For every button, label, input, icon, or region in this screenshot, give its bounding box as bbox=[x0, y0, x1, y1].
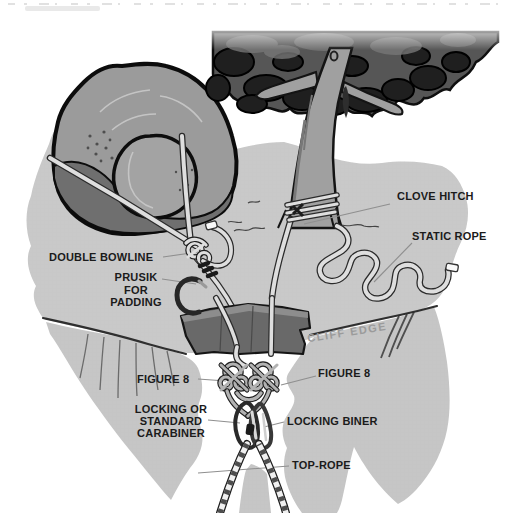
label-static-rope: STATIC ROPE bbox=[412, 230, 487, 242]
page-edge-text-artifact bbox=[8, 4, 505, 11]
locking-carabiners bbox=[235, 403, 271, 448]
rope-over-pad-right bbox=[271, 298, 272, 354]
rope-end-tip-2 bbox=[446, 263, 459, 272]
label-carabiner-line3: CARABINER bbox=[137, 427, 205, 439]
label-prusik-line1: PRUSIK bbox=[115, 271, 158, 283]
cliff-wedge-center bbox=[239, 464, 271, 513]
label-figure8-right: FIGURE 8 bbox=[318, 367, 370, 379]
label-prusik-line3: PADDING bbox=[110, 296, 161, 308]
label-locking-biner: LOCKING BINER bbox=[287, 415, 378, 427]
leader-locking-biner bbox=[264, 422, 284, 427]
label-carabiner-line2: STANDARD bbox=[140, 415, 203, 427]
carabiner-gate-right bbox=[263, 414, 266, 440]
anchor-diagram-page: CLOVE HITCH STATIC ROPE DOUBLE BOWLINE P… bbox=[0, 0, 513, 513]
locking-sleeve bbox=[245, 424, 254, 436]
canopy-top-fade bbox=[208, 20, 508, 50]
figure8-knot-right bbox=[250, 364, 277, 390]
label-clove-hitch: CLOVE HITCH bbox=[397, 190, 474, 202]
label-double-bowline: DOUBLE BOWLINE bbox=[49, 251, 153, 263]
top-rope-anchor-diagram: CLOVE HITCH STATIC ROPE DOUBLE BOWLINE P… bbox=[0, 0, 513, 513]
label-prusik-line2: FOR bbox=[124, 284, 148, 296]
label-top-rope: TOP-ROPE bbox=[292, 459, 351, 471]
label-carabiner-line1: LOCKING OR bbox=[135, 403, 207, 415]
label-figure8-left: FIGURE 8 bbox=[137, 373, 189, 385]
figure8-knot-left bbox=[220, 364, 247, 390]
